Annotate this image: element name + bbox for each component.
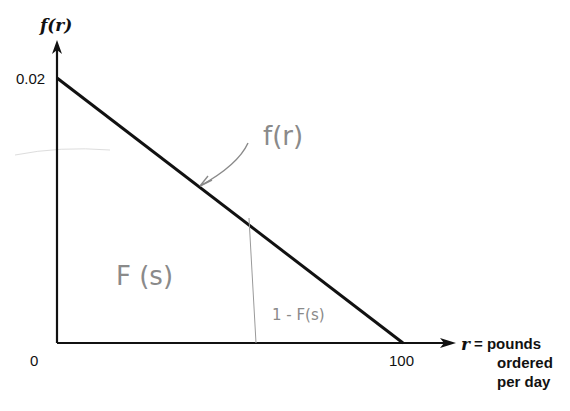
pdf-chart: f(r) 0.02 0 100 r = pounds ordered per d… <box>0 0 570 411</box>
y-axis-label: f(r) <box>39 15 72 35</box>
s-divider-line <box>249 218 256 343</box>
annotation-arrowhead-icon <box>200 176 212 186</box>
x-tick-100: 100 <box>389 352 414 369</box>
note-1-minus-F-of-s: 1 - F(s) <box>272 306 325 324</box>
faint-arc <box>15 149 110 155</box>
density-line <box>57 78 403 343</box>
annotation-arrow <box>200 143 248 186</box>
y-tick-0.02: 0.02 <box>16 70 45 87</box>
x-axis-desc-3: per day <box>497 373 551 390</box>
x-tick-0: 0 <box>30 352 38 369</box>
x-axis-desc-1: = pounds <box>474 335 541 352</box>
x-axis-variable: r <box>461 334 471 354</box>
note-f-of-r: f(r) <box>263 121 303 151</box>
x-axis-desc-2: ordered <box>497 354 553 371</box>
note-F-of-s: F (s) <box>116 261 173 291</box>
